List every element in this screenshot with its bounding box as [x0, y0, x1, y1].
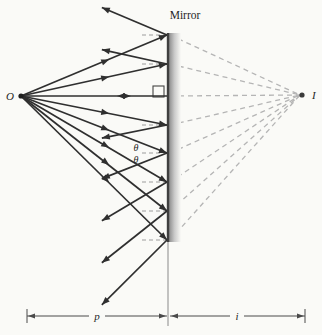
- plane-mirror-figure: Mirror O I θ θ p i: [0, 0, 322, 335]
- theta-incident-label: θ: [134, 142, 139, 153]
- image-distance-label: i: [235, 310, 238, 322]
- mirror: [168, 33, 181, 326]
- dimension-lines: [27, 309, 305, 323]
- mirror-label: Mirror: [170, 9, 201, 21]
- virtual-ray-extensions: [170, 35, 300, 240]
- object-label: O: [6, 90, 14, 102]
- object-distance-label: p: [93, 310, 100, 322]
- theta-reflected-label: θ: [134, 154, 139, 165]
- image-label: I: [311, 89, 317, 101]
- light-rays: [21, 8, 167, 305]
- plane-mirror-diagram: Mirror O I θ θ p i: [0, 0, 322, 335]
